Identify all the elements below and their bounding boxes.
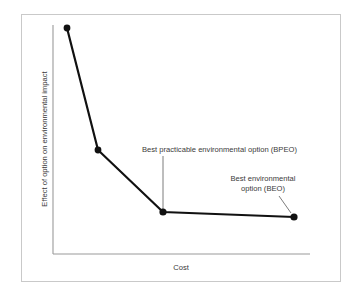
data-point-marker xyxy=(95,147,102,154)
annotation-beo: Best environmental option (BEO) xyxy=(215,174,311,193)
x-axis-label: Cost xyxy=(52,263,310,272)
beo-leader-line xyxy=(279,196,291,213)
annotation-beo-line2: option (BEO) xyxy=(215,184,311,194)
y-axis-label: Effect of option on environmental impact xyxy=(40,24,49,254)
annotation-bpeo: Best practicable environmental option (B… xyxy=(142,145,297,155)
annotation-beo-line1: Best environmental xyxy=(230,174,295,183)
chart-figure: Best practicable environmental option (B… xyxy=(0,0,364,292)
data-point-marker-bpeo xyxy=(159,208,166,215)
data-point-marker-beo xyxy=(290,213,297,220)
data-point-marker xyxy=(64,25,71,32)
